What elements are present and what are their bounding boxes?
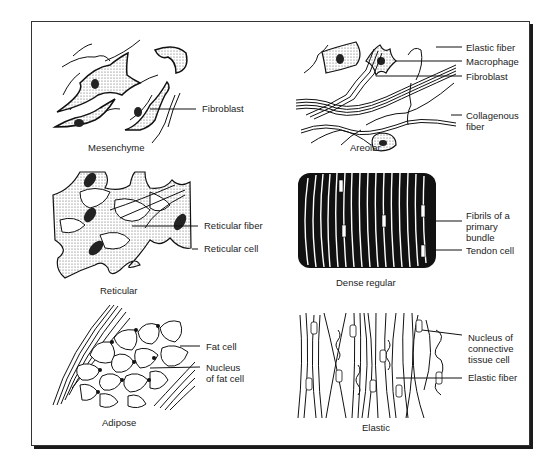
areolar-illustration	[296, 35, 526, 155]
caption-reticular: Reticular	[100, 285, 138, 296]
panel-elastic: Nucleus of connective tissue cell Elasti…	[296, 310, 526, 430]
panel-adipose: Fat cell Nucleus of fat cell Adipose	[50, 300, 280, 430]
label-fibroblast: Fibroblast	[466, 71, 508, 82]
caption-dense-regular: Dense regular	[336, 277, 396, 288]
label-nucleus-of-connective-tissue-cell: Nucleus of connective tissue cell	[468, 332, 513, 365]
panel-dense-regular: Fibrils of a primary bundle Tendon cell …	[296, 170, 526, 290]
label-nucleus-of-fat-cell: Nucleus of fat cell	[206, 362, 244, 384]
panel-mesenchyme: Fibroblast Mesenchyme	[50, 35, 280, 155]
label-reticular-cell: Reticular cell	[204, 243, 258, 254]
label-fibrils-of-primary-bundle: Fibrils of a primary bundle	[466, 210, 526, 243]
label-elastic-fiber: Elastic fiber	[466, 42, 515, 53]
caption-areolar: Areolar	[350, 142, 381, 153]
label-collagenous-fiber: Collagenous fiber	[466, 110, 519, 132]
label-tendon-cell: Tendon cell	[466, 245, 514, 256]
label-reticular-fiber: Reticular fiber	[204, 220, 263, 231]
caption-mesenchyme: Mesenchyme	[88, 142, 145, 153]
adipose-illustration	[50, 300, 280, 430]
elastic-illustration	[296, 310, 526, 430]
mesenchyme-illustration	[50, 35, 280, 155]
caption-adipose: Adipose	[102, 417, 136, 428]
label-fat-cell: Fat cell	[206, 341, 237, 352]
label-elastic-fiber: Elastic fiber	[468, 372, 517, 383]
caption-elastic: Elastic	[362, 422, 390, 433]
label-macrophage: Macrophage	[466, 56, 519, 67]
panel-areolar: Elastic fiber Macrophage Fibroblast Coll…	[296, 35, 526, 155]
panel-reticular: Reticular fiber Reticular cell Reticular	[50, 170, 280, 290]
label-fibroblast: Fibroblast	[202, 103, 244, 114]
